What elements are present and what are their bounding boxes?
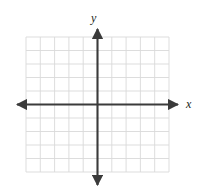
coordinate-plane-svg <box>0 0 206 193</box>
coordinate-plane-figure: y x <box>0 0 206 193</box>
x-axis-label: x <box>186 98 191 110</box>
y-axis-label: y <box>91 12 96 24</box>
